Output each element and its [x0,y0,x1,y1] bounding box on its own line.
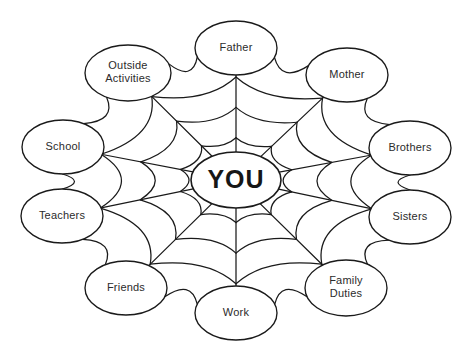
web-spoke-mother [261,97,324,156]
node-teachers-label: Teachers [39,209,86,221]
web-spoke-school [102,155,193,172]
web-strand-ring1-seg1 [236,138,272,147]
node-friends[interactable]: Friends [85,261,167,315]
node-sisters[interactable]: Sisters [369,190,451,244]
web-outer-strand-sisters-to-family-duties [365,240,389,264]
web-strand-ring1-seg10 [201,138,236,147]
node-sisters-label: Sisters [392,210,427,222]
web-spoke-friends [149,204,212,266]
web-spoke-teachers [101,189,193,208]
web-outer-strand-father-to-mother [274,57,308,72]
node-brothers-label: Brothers [388,141,431,153]
web-outer-strand-teachers-to-school [62,174,74,189]
web-strand-ring3-seg8 [100,154,121,208]
web-spoke-sisters [279,189,371,209]
web-strand-ring2-seg10 [177,107,236,122]
web-strand-ring3-seg4 [321,209,372,264]
web-strand-ring1-seg3 [283,170,292,192]
node-outside-activities-label: Activities [105,72,151,84]
web-strand-ring3-seg2 [322,98,372,155]
web-strand-ring2-seg9 [141,121,177,162]
web-strand-ring2-seg1 [236,107,297,122]
web-outer-strand-family-duties-to-work [275,289,307,304]
node-mother-label: Mother [329,68,365,80]
web-strand-ring1-seg8 [180,169,189,191]
web-strand-ring2-seg4 [296,200,332,239]
node-work-label: Work [223,306,250,318]
web-strand-ring2-seg8 [140,162,155,200]
web-outer-strand-friends-to-teachers [83,239,108,264]
node-family-duties-label: Family [329,274,363,286]
node-outside-activities[interactable]: OutsideActivities [85,45,171,101]
web-outer-strand-mother-to-brothers [365,98,390,124]
node-teachers[interactable]: Teachers [21,189,103,243]
node-mother[interactable]: Mother [306,48,388,102]
web-outer-strand-school-to-outside-activities [84,97,109,123]
web-strand-ring2-seg7 [140,200,176,240]
node-father[interactable]: Father [195,21,277,75]
node-brothers[interactable]: Brothers [369,121,451,175]
web-strand-ring2-seg2 [296,122,331,162]
web-strand-ring2-seg6 [176,238,237,253]
web-outer-strand-work-to-friends [165,289,197,304]
node-school[interactable]: School [22,120,104,174]
web-canvas: FatherMotherBrothersSistersFamilyDutiesW… [0,0,470,358]
web-spoke-brothers [279,155,370,172]
web-outer-strand-brothers-to-sisters [398,175,410,190]
web-strand-ring2-seg3 [317,162,332,200]
node-father-label: Father [220,41,253,53]
web-outer-strand-outside-activities-to-father [169,57,198,72]
node-friends-label: Friends [107,281,145,293]
spider-web-diagram: FatherMotherBrothersSistersFamilyDutiesW… [0,0,470,358]
web-strand-ring1-seg5 [236,214,271,223]
center-node-you[interactable]: YOU [191,152,281,208]
center-node-label: YOU [207,165,264,193]
node-work[interactable]: Work [195,286,277,340]
web-strand-ring1-seg6 [201,214,236,223]
web-spoke-family-duties [260,204,323,265]
node-family-duties[interactable]: FamilyDuties [305,260,387,316]
node-outside-activities-label: Outside [108,59,147,71]
web-strand-ring2-seg5 [236,238,297,253]
node-family-duties-label: Duties [330,287,363,299]
web-spoke-outside-activities [152,96,212,156]
center-node-group: YOU [191,152,281,208]
web-strand-ring3-seg3 [351,155,372,209]
node-school-label: School [46,140,81,152]
